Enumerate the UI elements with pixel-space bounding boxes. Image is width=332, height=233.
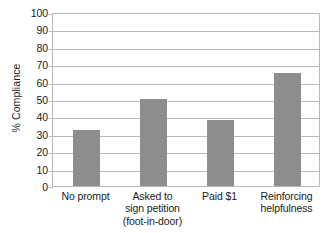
x-axis-tick-label-line: Reinforcing bbox=[253, 190, 320, 202]
bar-chart: % Compliance 0102030405060708090100 No p… bbox=[0, 0, 332, 233]
x-axis-tick-label: Paid $1 bbox=[186, 190, 253, 202]
y-axis-tick-label: 10 bbox=[22, 165, 48, 175]
y-axis-tick-label: 30 bbox=[22, 130, 48, 140]
bar bbox=[140, 99, 167, 186]
x-axis-tick-label-line: (foot-in-door) bbox=[119, 215, 186, 227]
bar bbox=[207, 120, 234, 186]
x-axis-tick-label-line: sign petition bbox=[119, 202, 186, 214]
y-axis-tick-labels: 0102030405060708090100 bbox=[22, 8, 48, 187]
y-axis-tick-label: 0 bbox=[22, 182, 48, 192]
y-axis-tick-label: 60 bbox=[22, 78, 48, 88]
y-axis-title: % Compliance bbox=[10, 33, 22, 163]
x-axis-tick-label: No prompt bbox=[52, 190, 119, 202]
y-axis-tick-label: 20 bbox=[22, 147, 48, 157]
x-axis-tick-label-line: Paid $1 bbox=[186, 190, 253, 202]
bars-group bbox=[53, 14, 319, 186]
x-axis-tick-label: Reinforcinghelpfulness bbox=[253, 190, 320, 215]
y-axis-tick-label: 100 bbox=[22, 8, 48, 18]
y-axis-tick-label: 50 bbox=[22, 95, 48, 105]
x-axis-tick-label: Asked tosign petition(foot-in-door) bbox=[119, 190, 186, 227]
plot-area bbox=[52, 13, 320, 187]
y-axis-tick-label: 90 bbox=[22, 25, 48, 35]
y-axis-tick-label: 70 bbox=[22, 60, 48, 70]
y-axis-tick-label: 80 bbox=[22, 43, 48, 53]
x-axis-tick-labels: No promptAsked tosign petition(foot-in-d… bbox=[52, 190, 320, 233]
bar bbox=[73, 130, 100, 186]
x-axis-tick-label-line: helpfulness bbox=[253, 202, 320, 214]
bar bbox=[274, 73, 301, 186]
x-axis-tick-label-line: No prompt bbox=[52, 190, 119, 202]
y-axis-tick-label: 40 bbox=[22, 112, 48, 122]
x-axis-tick-label-line: Asked to bbox=[119, 190, 186, 202]
y-axis-tick-mark bbox=[49, 187, 53, 188]
